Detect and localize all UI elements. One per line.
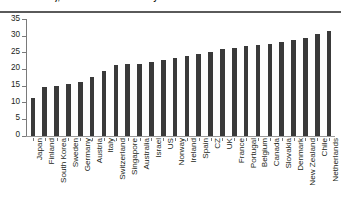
y-axis-tick: [22, 52, 26, 53]
bar: [161, 60, 166, 136]
bar: [185, 56, 190, 136]
x-axis-tick-label: Finland: [48, 138, 56, 165]
bar: [220, 49, 225, 136]
bar: [232, 48, 237, 136]
x-axis-tick-label: Italy: [107, 138, 115, 153]
x-axis-tick-label: UK: [226, 138, 234, 149]
bar: [149, 62, 154, 136]
x-axis-tick: [80, 138, 81, 141]
y-axis-tick: [22, 119, 26, 120]
x-axis-tick-label: Singapore: [131, 138, 139, 175]
y-axis-tick-label: 20: [0, 64, 20, 72]
x-axis-labels: JapanFinlandSouth KoreaSwedenGermanyAust…: [27, 138, 335, 218]
x-axis-tick: [329, 138, 330, 141]
chart-title-clipped: standardised), 2014 or latest available …: [0, 0, 341, 11]
x-axis-tick: [116, 138, 117, 141]
x-axis-tick: [187, 138, 188, 141]
x-axis-tick: [305, 138, 306, 141]
x-axis-tick-label: Denmark: [297, 138, 305, 171]
x-axis-tick: [270, 138, 271, 141]
bar: [268, 44, 273, 136]
bar: [196, 54, 201, 136]
x-axis-tick: [163, 138, 164, 141]
bar: [279, 42, 284, 136]
x-axis-tick: [45, 138, 46, 141]
x-axis-tick-label: Belgium: [261, 138, 269, 167]
x-axis-tick-label: Germany: [84, 138, 92, 171]
x-axis-tick: [258, 138, 259, 141]
x-axis-tick-label: CZ: [214, 138, 222, 149]
bar: [327, 31, 332, 136]
bar: [173, 58, 178, 136]
x-axis-tick-label: Slovakia: [285, 138, 293, 169]
y-axis-tick: [22, 136, 26, 137]
bar: [31, 98, 36, 136]
x-axis-tick: [92, 138, 93, 141]
x-axis-tick-label: Ireland: [190, 138, 198, 163]
x-axis-tick-label: France: [238, 138, 246, 163]
bar: [125, 64, 130, 135]
x-axis-line: [26, 136, 335, 137]
x-axis-tick-label: Sweden: [72, 138, 80, 167]
bar: [291, 40, 296, 135]
y-axis-tick: [22, 102, 26, 103]
x-axis-tick-label: Australia: [143, 138, 151, 170]
bar: [315, 34, 320, 136]
x-axis-tick-label: US: [167, 138, 175, 149]
chart-figure: standardised), 2014 or latest available …: [0, 0, 341, 218]
x-axis-tick: [222, 138, 223, 141]
bar: [244, 46, 249, 136]
y-axis-tick: [22, 36, 26, 37]
x-axis-tick: [211, 138, 212, 141]
y-axis-tick-label: 15: [0, 81, 20, 89]
x-axis-tick-label: New Zealand: [309, 138, 317, 186]
y-axis-tick-label: 10: [0, 98, 20, 106]
x-axis-tick-label: Japan: [36, 138, 44, 160]
x-axis-tick-label: Austria: [96, 138, 104, 163]
x-axis-tick: [317, 138, 318, 141]
x-axis-tick-label: Switzerland: [119, 138, 127, 180]
bar: [303, 38, 308, 136]
y-axis-tick-label: 25: [0, 48, 20, 56]
x-axis-tick-label: Chile: [321, 138, 329, 156]
title-divider: [0, 11, 341, 13]
chart-title: standardised), 2014 or latest available …: [4, 0, 334, 2]
x-axis-tick: [246, 138, 247, 141]
x-axis-tick-label: Norway: [178, 138, 186, 165]
x-axis-tick: [175, 138, 176, 141]
y-axis-tick-label: 0: [0, 131, 20, 139]
x-axis-tick: [199, 138, 200, 141]
bar: [102, 71, 107, 135]
y-axis-tick: [22, 86, 26, 87]
x-axis-tick: [282, 138, 283, 141]
x-axis-tick: [140, 138, 141, 141]
x-axis-tick-label: South Korea: [60, 138, 68, 183]
x-axis-tick: [57, 138, 58, 141]
x-axis-tick-label: Israel: [155, 138, 163, 158]
bar: [256, 45, 261, 136]
x-axis-tick-label: Portugal: [250, 138, 258, 168]
x-axis-tick: [104, 138, 105, 141]
y-axis-tick: [22, 19, 26, 20]
bar-series: [27, 19, 335, 136]
bar: [54, 86, 59, 136]
x-axis-tick: [151, 138, 152, 141]
bar: [90, 77, 95, 136]
x-axis-tick: [68, 138, 69, 141]
bar: [114, 65, 119, 136]
y-axis-tick-label: 5: [0, 114, 20, 122]
x-axis-tick-label: Netherlands: [332, 138, 340, 182]
x-axis-tick: [33, 138, 34, 141]
bar: [137, 64, 142, 136]
bar: [42, 87, 47, 136]
x-axis-tick: [294, 138, 295, 141]
bar: [78, 82, 83, 136]
bar: [208, 52, 213, 136]
y-axis-tick: [22, 69, 26, 70]
y-axis-tick-label: 35: [0, 15, 20, 23]
x-axis-tick-label: Canada: [273, 138, 281, 166]
x-axis-tick: [234, 138, 235, 141]
y-axis-tick-label: 30: [0, 31, 20, 39]
x-axis-tick-label: Spain: [202, 138, 210, 159]
bar: [66, 84, 71, 136]
